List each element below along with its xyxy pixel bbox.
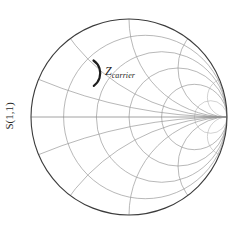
reactance-arc-2 xyxy=(178,19,240,117)
smith-grid xyxy=(0,0,240,231)
reactance-arc-neg2 xyxy=(178,117,240,215)
zcarrier-subscript: carrier xyxy=(112,71,135,80)
zcarrier-annotation: Zcarrier xyxy=(105,64,135,80)
zcarrier-symbol: Z xyxy=(105,64,112,78)
reactance-arc-0p2 xyxy=(0,0,240,117)
zcarrier-trace xyxy=(94,61,101,86)
reactance-arc-0p5 xyxy=(31,0,240,117)
y-axis-label: S(1,1) xyxy=(3,95,15,137)
smith-chart-figure xyxy=(0,0,240,231)
